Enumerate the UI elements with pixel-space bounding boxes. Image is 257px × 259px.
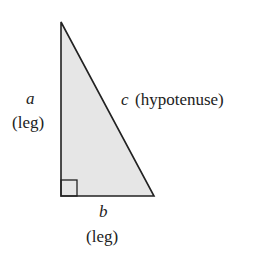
label-c-desc: (hypotenuse) bbox=[135, 91, 224, 108]
label-a-desc: (leg) bbox=[12, 114, 44, 131]
label-b-desc: (leg) bbox=[86, 228, 118, 245]
label-a: a bbox=[26, 90, 35, 107]
right-triangle bbox=[61, 22, 154, 196]
label-b: b bbox=[99, 203, 108, 220]
label-c: c bbox=[121, 91, 129, 108]
